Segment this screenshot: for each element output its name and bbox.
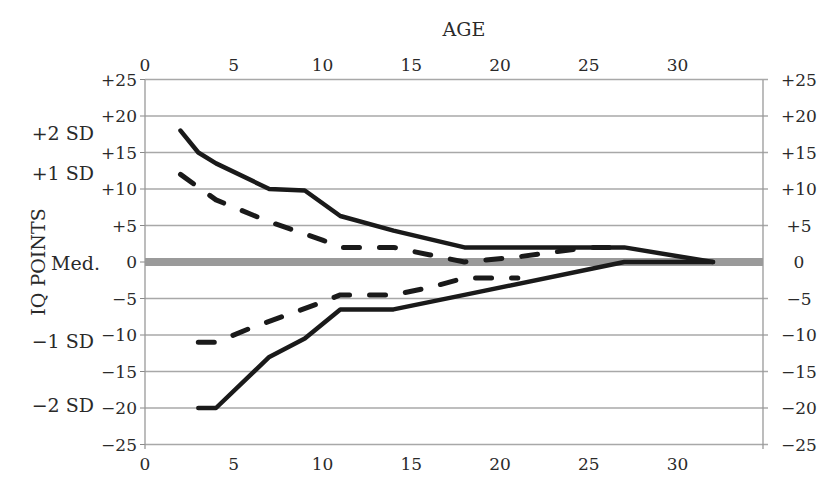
y-tick-label-right: +25 <box>781 70 817 90</box>
y-tick-label-right: 0 <box>794 252 805 272</box>
series-line-2sd <box>181 131 714 262</box>
x-tick-label-top: 20 <box>489 55 511 75</box>
x-tick-label-top: 10 <box>312 55 334 75</box>
x-tick-label-top: 15 <box>400 55 422 75</box>
series-lines <box>181 131 714 408</box>
x-tick-label-top: 30 <box>667 55 689 75</box>
y-tick-label-left: −10 <box>101 325 137 345</box>
y-tick-label-right: +10 <box>781 179 817 199</box>
sd-label: −1 SD <box>32 330 94 352</box>
y-tick-label-left: +10 <box>101 179 137 199</box>
y-tick-label-left: −5 <box>112 289 137 309</box>
y-tick-label-right: +15 <box>781 143 817 163</box>
x-tick-label-top: 25 <box>578 55 600 75</box>
x-tick-label-bottom: 5 <box>228 454 239 474</box>
y-tick-label-left: +5 <box>112 216 137 236</box>
x-tick-label-bottom: 15 <box>400 454 422 474</box>
y-axis-label: IQ POINTS <box>27 208 49 315</box>
y-tick-label-left: +20 <box>101 106 137 126</box>
x-tick-label-bottom: 0 <box>140 454 151 474</box>
x-tick-label-top: 0 <box>140 55 151 75</box>
y-tick-label-right: −20 <box>781 398 817 418</box>
x-tick-label-top: 5 <box>228 55 239 75</box>
y-tick-label-right: −10 <box>781 325 817 345</box>
chart-title: AGE <box>442 18 486 40</box>
y-tick-label-left: −20 <box>101 398 137 418</box>
x-tick-label-bottom: 30 <box>667 454 689 474</box>
x-tick-label-bottom: 20 <box>489 454 511 474</box>
y-tick-label-right: −25 <box>781 435 817 455</box>
y-tick-label-left: +15 <box>101 143 137 163</box>
y-tick-label-right: +20 <box>781 106 817 126</box>
y-tick-label-left: −15 <box>101 362 137 382</box>
sd-label: Med. <box>51 252 100 274</box>
iq-age-chart: AGE IQ POINTS +25+25+20+20+15+15+10+10+5… <box>0 0 823 489</box>
sd-label: +1 SD <box>32 162 94 184</box>
x-tick-label-bottom: 25 <box>578 454 600 474</box>
y-tick-label-right: −5 <box>786 289 811 309</box>
x-tick-label-bottom: 10 <box>312 454 334 474</box>
sd-label: +2 SD <box>32 122 94 144</box>
y-tick-label-right: −15 <box>781 362 817 382</box>
y-tick-label-left: +25 <box>101 70 137 90</box>
sd-label: −2 SD <box>32 394 94 416</box>
y-tick-label-left: −25 <box>101 435 137 455</box>
y-tick-label-left: 0 <box>126 252 137 272</box>
y-tick-label-right: +5 <box>786 216 811 236</box>
